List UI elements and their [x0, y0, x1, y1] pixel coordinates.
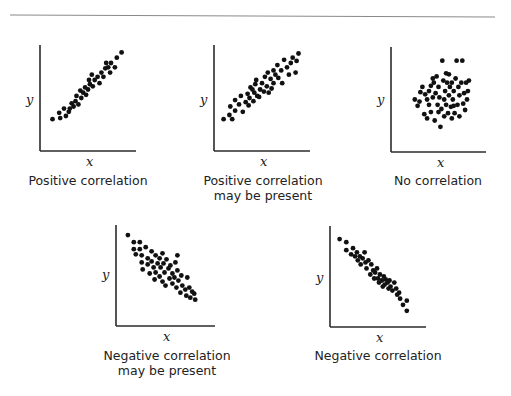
data-point [454, 58, 459, 63]
data-point [415, 103, 420, 108]
data-point [404, 308, 409, 313]
data-point [239, 94, 244, 99]
data-point [437, 95, 442, 100]
data-point [285, 65, 290, 70]
data-point [369, 262, 374, 267]
data-point [151, 265, 156, 270]
data-point [139, 260, 144, 265]
data-point [233, 108, 238, 113]
data-point [173, 260, 178, 265]
data-point [149, 249, 154, 254]
data-point [131, 240, 136, 245]
data-point [448, 85, 453, 90]
data-point [157, 274, 162, 279]
data-point [250, 87, 255, 92]
data-point [449, 116, 454, 121]
data-point [164, 257, 169, 262]
data-point [50, 117, 55, 122]
data-point [435, 102, 440, 107]
data-point [457, 93, 462, 98]
data-point [438, 124, 443, 129]
data-point [444, 102, 449, 107]
data-point [373, 270, 378, 275]
data-point [137, 247, 142, 252]
data-point [113, 65, 118, 70]
data-point [364, 266, 369, 271]
y-axis-label: y [199, 92, 208, 107]
data-point [450, 97, 455, 102]
x-axis-label: x [376, 330, 384, 345]
data-point [133, 252, 138, 257]
data-point [404, 298, 409, 303]
data-point [430, 76, 435, 81]
data-point [175, 268, 180, 273]
data-point [140, 267, 145, 272]
data-point [423, 92, 428, 97]
data-point [425, 97, 430, 102]
data-point [372, 276, 377, 281]
data-point [185, 275, 190, 280]
data-point [366, 258, 371, 263]
data-point [251, 99, 256, 104]
data-point [227, 113, 232, 118]
data-point [420, 85, 425, 90]
data-point [153, 270, 158, 275]
panel-positive-maybe: y x Positive correlation may be present [199, 45, 323, 203]
data-point [282, 57, 287, 62]
data-point [139, 253, 144, 258]
data-point [440, 58, 445, 63]
data-point [288, 61, 293, 66]
data-point [237, 102, 242, 107]
data-point [192, 291, 197, 296]
data-point [425, 116, 430, 121]
data-point [233, 98, 238, 103]
data-point [228, 104, 233, 109]
data-point [174, 285, 179, 290]
data-point [263, 74, 268, 79]
data-point [106, 65, 111, 70]
panel-caption-line-1: Positive correlation [203, 173, 322, 188]
data-point [418, 90, 423, 95]
data-point [137, 240, 142, 245]
y-axis-label: y [25, 92, 34, 107]
data-point [447, 93, 452, 98]
data-point [109, 61, 114, 66]
data-point [269, 86, 274, 91]
data-point [126, 233, 131, 238]
data-point [157, 256, 162, 261]
data-point [86, 87, 91, 92]
y-axis-label: y [376, 92, 385, 107]
x-axis-label: x [437, 155, 445, 170]
data-point [368, 272, 373, 277]
panel-negative-maybe: y x Negative correlation may be present [101, 225, 231, 378]
panel-caption-line-2: may be present [214, 188, 312, 203]
data-point [101, 74, 106, 79]
data-point [271, 68, 276, 73]
data-point [398, 296, 403, 301]
data-point [449, 80, 454, 85]
data-point [439, 107, 444, 112]
data-point [246, 103, 251, 108]
x-axis-label: x [86, 154, 94, 169]
data-point [433, 91, 438, 96]
data-point [155, 261, 160, 266]
data-point [97, 81, 102, 86]
data-point [163, 283, 168, 288]
panel-caption: Negative correlation [314, 348, 441, 363]
dots [50, 50, 124, 122]
data-point [76, 102, 81, 107]
data-point [179, 273, 184, 278]
data-point [451, 89, 456, 94]
correlation-figure: y x Positive correlation y x Positive co… [0, 0, 511, 396]
data-point [149, 259, 154, 264]
data-point [461, 101, 466, 106]
data-point [296, 51, 301, 56]
x-axis-label: x [163, 329, 171, 344]
data-point [375, 266, 380, 271]
data-point [427, 102, 432, 107]
data-point [412, 97, 417, 102]
data-point [445, 80, 450, 85]
data-point [442, 97, 447, 102]
data-point [58, 116, 63, 121]
panel-caption: No correlation [394, 173, 482, 188]
